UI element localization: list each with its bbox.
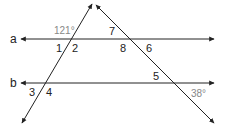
transversal-right	[96, 5, 214, 123]
angle-2-label: 2	[72, 42, 78, 54]
angle-5-label: 5	[153, 70, 159, 82]
angle-1-label: 1	[56, 42, 62, 54]
parallel-lines-diagram: a b 121° 38° 1 2 7 8 6 3 4 5	[0, 0, 228, 138]
angle-8-label: 8	[120, 42, 126, 54]
line-a-label: a	[10, 32, 17, 46]
angle-38-label: 38°	[191, 88, 206, 99]
angle-3-label: 3	[29, 86, 35, 98]
line-b-label: b	[10, 76, 17, 90]
angle-6-label: 6	[146, 42, 152, 54]
transversal-left	[22, 4, 92, 123]
angle-121-label: 121°	[54, 25, 75, 36]
angle-4-label: 4	[46, 86, 52, 98]
angle-7-label: 7	[109, 25, 115, 37]
